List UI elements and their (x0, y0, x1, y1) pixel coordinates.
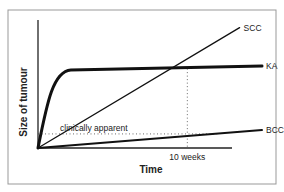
tumour-growth-diagram: SCCKABCC clinically apparent 10 weeks Ti… (0, 0, 284, 192)
series-label-ka: KA (266, 61, 278, 71)
x-tick-label: 10 weeks (169, 152, 205, 162)
y-axis-label: Size of tumour (18, 67, 29, 137)
series-label-scc: SCC (244, 23, 262, 33)
series-label-bcc: BCC (266, 125, 284, 135)
threshold-label: clinically apparent (60, 123, 128, 133)
x-axis-label: Time (139, 164, 163, 175)
series-line-ka (38, 66, 262, 148)
